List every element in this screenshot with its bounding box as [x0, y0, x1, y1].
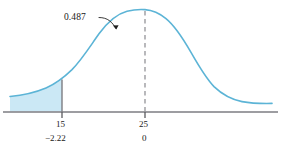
tick-label-left-z: −2.22 — [45, 134, 66, 143]
annotation-value-label: 0.487 — [64, 13, 86, 23]
annotation-arrowhead — [113, 25, 119, 29]
chart-canvas — [0, 0, 281, 152]
tick-label-left-x: 15 — [56, 120, 65, 129]
normal-distribution-chart: 0.487 15 −2.22 25 0 — [0, 0, 281, 152]
tick-label-center-z: 0 — [142, 134, 147, 143]
tick-label-center-x: 25 — [139, 120, 148, 129]
